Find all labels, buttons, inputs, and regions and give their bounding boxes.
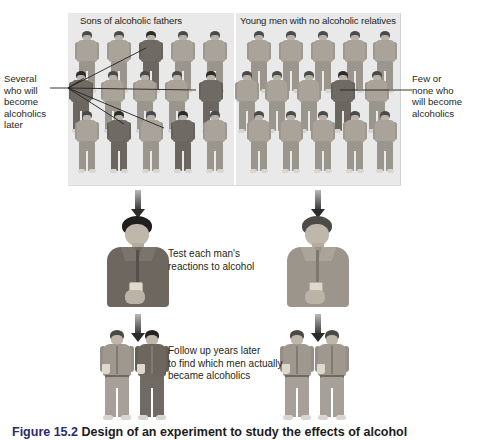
flow-arrow-left-step1 — [131, 190, 145, 218]
step-caption-line: became alcoholics — [168, 370, 250, 381]
step-caption-line: Follow up years later — [168, 345, 260, 356]
comparison-panel: Sons of alcoholic fathers Young men with… — [68, 13, 401, 185]
annotation-line: will become — [412, 96, 462, 107]
person-figure — [278, 111, 304, 173]
annotation-several-become-alcoholics: Several who will become alcoholics later — [4, 73, 66, 131]
crowd-no-alcoholic-relatives — [234, 31, 400, 183]
person-figure — [74, 111, 100, 173]
annotation-line: who will — [4, 85, 38, 96]
annotation-line: Several — [4, 73, 37, 84]
annotation-line: later — [4, 119, 23, 130]
crowd-row — [234, 111, 400, 175]
step-caption-test-reactions: Test each man's reactions to alcohol — [168, 248, 298, 273]
step-caption-line: to find which men actually — [168, 358, 283, 369]
annotation-few-or-none-become-alcoholics: Few or none who will become alcoholics — [412, 73, 480, 119]
person-figure-highlighted — [170, 111, 196, 173]
person-figure — [372, 111, 398, 173]
figure-caption-text: Design of an experiment to study the eff… — [81, 425, 407, 439]
group-heading-sons-of-alcoholic-fathers: Sons of alcoholic fathers — [80, 15, 182, 27]
person-figure-highlighted — [106, 111, 132, 173]
crowd-sons-of-alcoholic-fathers — [68, 31, 234, 183]
step-caption-follow-up: Follow up years later to find which men … — [168, 345, 318, 383]
step-caption-line: Test each man's — [168, 248, 240, 259]
crowd-row — [68, 111, 234, 175]
person-figure — [246, 111, 272, 173]
figure-caption-number: Figure 15.2 — [12, 425, 78, 439]
group-heading-no-alcoholic-relatives: Young men with no alcoholic relatives — [240, 15, 396, 27]
figure-caption: Figure 15.2 Design of an experiment to s… — [12, 424, 468, 440]
annotation-line: alcoholics — [4, 108, 46, 119]
annotation-line: alcoholics — [412, 108, 454, 119]
person-figure — [202, 111, 228, 173]
figure-root: Sons of alcoholic fathers Young men with… — [0, 0, 480, 440]
big-figure-sons-group — [101, 216, 175, 316]
flow-arrow-right-step1 — [311, 190, 325, 218]
person-figure — [310, 111, 336, 173]
person-figure — [342, 111, 368, 173]
annotation-line: Few or — [412, 73, 441, 84]
followup-figure-right-b — [315, 330, 349, 422]
annotation-line: become — [4, 96, 38, 107]
followup-figure-left-light — [100, 330, 134, 422]
step-caption-line: reactions to alcohol — [168, 261, 254, 272]
annotation-line: none who — [412, 85, 454, 96]
person-figure — [138, 111, 164, 173]
followup-figure-left-dark — [135, 330, 169, 422]
